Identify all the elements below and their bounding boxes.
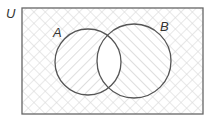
venn-diagram: U A B bbox=[0, 0, 206, 121]
set-b-label: B bbox=[160, 19, 169, 34]
set-a-label: A bbox=[52, 25, 62, 40]
universe-label: U bbox=[6, 6, 16, 21]
